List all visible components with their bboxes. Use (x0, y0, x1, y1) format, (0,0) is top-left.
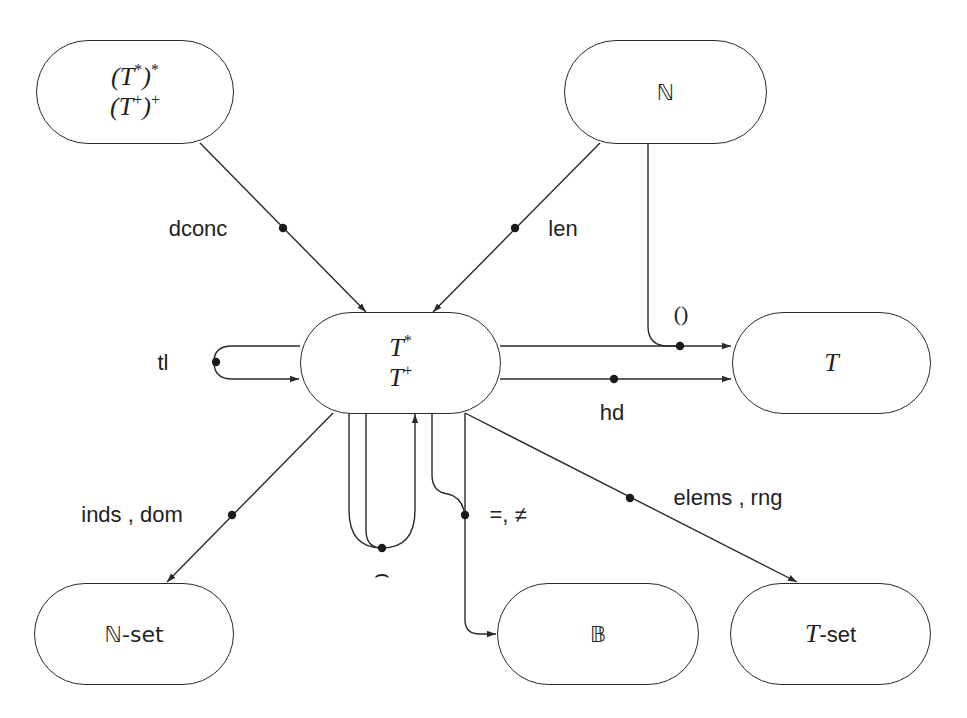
label-apply: () (674, 301, 689, 327)
label-tl: tl (158, 350, 169, 376)
edge-conc (349, 413, 415, 548)
node-seq-of-seq-line1: (T*)* (111, 62, 159, 92)
label-len: len (548, 216, 577, 242)
node-t-set: T -set (730, 583, 931, 685)
node-nat-set-label: ℕ-set (104, 622, 163, 647)
label-hd: hd (600, 400, 624, 426)
node-nat: ℕ (564, 40, 767, 144)
dot-tl (212, 358, 220, 366)
label-dconc: dconc (169, 216, 228, 242)
node-bool: 𝔹 (497, 583, 699, 685)
dot-hd (610, 375, 618, 383)
dot-eq (461, 511, 469, 519)
node-seq-of-seq: (T*)* (T+)+ (36, 40, 234, 144)
node-nat-label: ℕ (657, 80, 675, 105)
node-seq: T* T+ (300, 312, 501, 414)
node-bool-label: 𝔹 (590, 622, 606, 647)
node-t-set-suffix: -set (819, 622, 856, 648)
node-seq-of-seq-line2: (T+)+ (110, 92, 160, 122)
dot-dconc (279, 224, 287, 232)
node-t-set-italic: T (805, 619, 819, 649)
label-conc: ⌢ (374, 561, 390, 588)
dot-apply (676, 342, 684, 350)
label-eq: =, ≠ (489, 502, 526, 528)
node-t: T (732, 312, 931, 414)
dot-elems (626, 494, 634, 502)
node-seq-line1: T* (389, 333, 411, 363)
node-seq-line2: T+ (389, 363, 413, 393)
dot-conc (378, 544, 386, 552)
dot-len (511, 224, 519, 232)
label-elems: elems , rng (674, 485, 783, 511)
node-t-label: T (824, 348, 838, 378)
edge-tl (214, 346, 300, 379)
edge-eq (432, 413, 465, 515)
dot-inds (228, 511, 236, 519)
edge-inds (167, 413, 333, 582)
node-nat-set: ℕ-set (34, 583, 234, 685)
label-inds: inds , dom (81, 502, 183, 528)
